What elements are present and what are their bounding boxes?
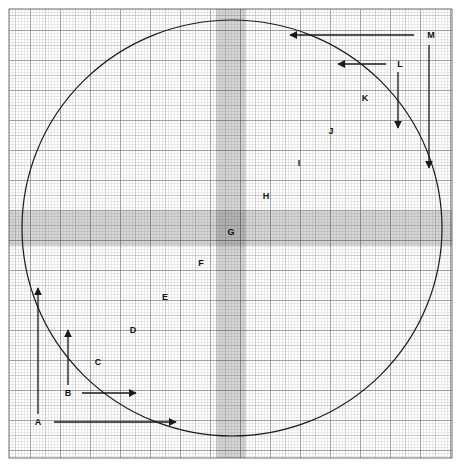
callout-label-A: A	[35, 418, 42, 427]
region-label-I: I	[298, 159, 301, 168]
callout-label-L: L	[397, 60, 403, 69]
region-label-C: C	[95, 358, 102, 367]
callout-label-B: B	[65, 389, 72, 398]
region-label-D: D	[130, 326, 137, 335]
callout-label-M: M	[427, 31, 435, 40]
region-label-J: J	[328, 127, 333, 136]
region-label-G: G	[227, 228, 234, 237]
region-label-H: H	[263, 192, 270, 201]
region-label-K: K	[362, 94, 369, 103]
region-label-F: F	[198, 259, 204, 268]
region-label-E: E	[162, 293, 168, 302]
diagram-canvas: C D E F G H I J K A B L M	[0, 0, 466, 472]
